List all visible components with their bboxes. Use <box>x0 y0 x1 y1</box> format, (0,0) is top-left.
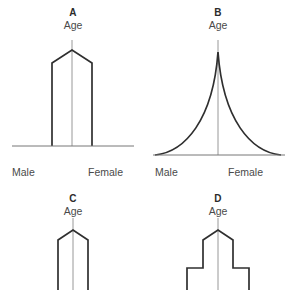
panel-a-plot <box>0 0 146 190</box>
panel-b-male-label: Male <box>155 166 178 178</box>
panel-c: C Age <box>0 190 146 290</box>
panel-a-male-label: Male <box>12 166 35 178</box>
panel-c-plot <box>0 190 146 290</box>
panel-b: B Age Male Female <box>145 0 291 190</box>
panel-b-plot <box>145 0 291 190</box>
population-pyramid-figure: A Age Male Female B Age Male Female C Ag… <box>0 0 291 290</box>
panel-d: D Age <box>145 190 291 290</box>
panel-d-plot <box>145 190 291 290</box>
panel-a: A Age Male Female <box>0 0 146 190</box>
panel-b-female-label: Female <box>228 166 263 178</box>
panel-a-female-label: Female <box>88 166 123 178</box>
